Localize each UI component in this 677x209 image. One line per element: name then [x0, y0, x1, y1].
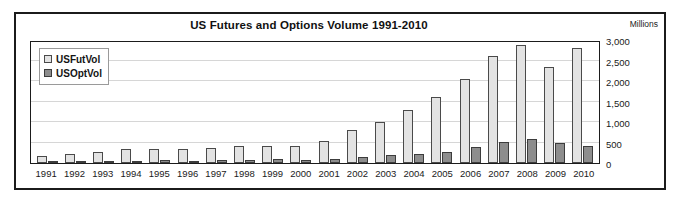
bar-usoptvol[interactable]: [583, 146, 593, 163]
y-tick-label: 2,500: [606, 56, 630, 67]
x-tick-label-1998: 1998: [230, 168, 258, 179]
bar-usfutvol[interactable]: [460, 79, 470, 163]
bar-usfutvol[interactable]: [262, 146, 272, 163]
y-tick-label: 1,000: [606, 118, 630, 129]
y-tick-label: 0: [606, 159, 611, 170]
x-tick-label-2001: 2001: [315, 168, 343, 179]
bar-usfutvol[interactable]: [37, 156, 47, 163]
bar-usoptvol[interactable]: [499, 142, 509, 163]
bar-group: [230, 42, 258, 163]
x-tick-label-1991: 1991: [32, 168, 60, 179]
bar-usfutvol[interactable]: [121, 149, 131, 163]
bar-group: [315, 42, 343, 163]
bar-usoptvol[interactable]: [358, 157, 368, 163]
x-tick-label-1994: 1994: [117, 168, 145, 179]
bar-group: [174, 42, 202, 163]
x-tick-label-2009: 2009: [541, 168, 569, 179]
bar-usfutvol[interactable]: [403, 110, 413, 163]
chart-legend: USFutVol USOptVol: [39, 48, 109, 85]
bar-usfutvol[interactable]: [488, 56, 498, 163]
chart-frame: US Futures and Options Volume 1991-2010 …: [14, 12, 666, 190]
x-tick-label-2006: 2006: [456, 168, 484, 179]
legend-swatch-icon-usfutvol: [44, 55, 52, 63]
x-tick-label-1999: 1999: [258, 168, 286, 179]
bar-usfutvol[interactable]: [93, 152, 103, 163]
x-tick-label-2002: 2002: [343, 168, 371, 179]
bar-usoptvol[interactable]: [471, 147, 481, 163]
x-tick-label-2008: 2008: [513, 168, 541, 179]
bar-usoptvol[interactable]: [132, 161, 142, 163]
y-axis-labels: 3,0002,5002,0001,5001,0005000: [604, 41, 650, 164]
bar-usoptvol[interactable]: [217, 160, 227, 163]
bar-usfutvol[interactable]: [375, 122, 385, 163]
bar-group: [569, 42, 597, 163]
bar-group: [146, 42, 174, 163]
legend-label-usfutvol: USFutVol: [56, 54, 100, 65]
x-tick-label-1992: 1992: [60, 168, 88, 179]
bar-usoptvol[interactable]: [245, 160, 255, 163]
x-tick-label-2007: 2007: [485, 168, 513, 179]
bar-usoptvol[interactable]: [160, 160, 170, 163]
y-tick-label: 3,000: [606, 36, 630, 47]
x-tick-label-1993: 1993: [89, 168, 117, 179]
legend-swatch-icon-usoptvol: [44, 69, 52, 77]
bar-usfutvol[interactable]: [572, 48, 582, 163]
bar-group: [371, 42, 399, 163]
bar-group: [287, 42, 315, 163]
x-tick-label-2003: 2003: [372, 168, 400, 179]
bar-usfutvol[interactable]: [431, 97, 441, 163]
bar-usoptvol[interactable]: [189, 161, 199, 163]
bar-usoptvol[interactable]: [527, 139, 537, 163]
bar-usoptvol[interactable]: [330, 159, 340, 163]
bar-group: [484, 42, 512, 163]
plot-area: USFutVol USOptVol: [30, 41, 600, 164]
x-tick-label-2000: 2000: [287, 168, 315, 179]
bar-usoptvol[interactable]: [442, 152, 452, 163]
bar-usfutvol[interactable]: [206, 148, 216, 163]
plot-inner: [31, 42, 599, 163]
bar-usoptvol[interactable]: [555, 143, 565, 164]
bar-usoptvol[interactable]: [386, 155, 396, 163]
bar-usfutvol[interactable]: [178, 149, 188, 163]
y-axis-units-label: Millions: [630, 19, 658, 29]
bar-group: [456, 42, 484, 163]
bar-usoptvol[interactable]: [48, 161, 58, 163]
bar-usfutvol[interactable]: [319, 141, 329, 163]
bar-group: [512, 42, 540, 163]
bar-group: [202, 42, 230, 163]
legend-label-usoptvol: USOptVol: [56, 68, 102, 79]
bar-usfutvol[interactable]: [65, 154, 75, 163]
bar-usfutvol[interactable]: [544, 67, 554, 163]
bar-usfutvol[interactable]: [516, 45, 526, 163]
x-tick-label-2004: 2004: [400, 168, 428, 179]
x-tick-label-1996: 1996: [173, 168, 201, 179]
bar-usoptvol[interactable]: [273, 159, 283, 163]
bar-usfutvol[interactable]: [149, 149, 159, 163]
legend-item-usoptvol: USOptVol: [44, 66, 102, 80]
legend-item-usfutvol: USFutVol: [44, 52, 102, 66]
y-tick-label: 2,000: [606, 77, 630, 88]
y-tick-label: 500: [606, 138, 622, 149]
bar-usoptvol[interactable]: [104, 161, 114, 163]
bar-group: [541, 42, 569, 163]
bar-group: [428, 42, 456, 163]
x-tick-label-2005: 2005: [428, 168, 456, 179]
x-tick-label-1995: 1995: [145, 168, 173, 179]
chart-title: US Futures and Options Volume 1991-2010: [16, 19, 602, 31]
x-tick-label-2010: 2010: [570, 168, 598, 179]
bar-usfutvol[interactable]: [290, 146, 300, 163]
bar-usfutvol[interactable]: [347, 130, 357, 163]
bars-layer: [31, 42, 599, 163]
bar-group: [118, 42, 146, 163]
x-axis-labels: 1991199219931994199519961997199819992000…: [30, 168, 600, 179]
bar-group: [343, 42, 371, 163]
y-tick-label: 1,500: [606, 97, 630, 108]
x-tick-label-1997: 1997: [202, 168, 230, 179]
bar-usoptvol[interactable]: [301, 160, 311, 163]
bar-group: [400, 42, 428, 163]
bar-usfutvol[interactable]: [234, 146, 244, 163]
bar-usoptvol[interactable]: [76, 161, 86, 163]
bar-group: [259, 42, 287, 163]
bar-usoptvol[interactable]: [414, 154, 424, 163]
